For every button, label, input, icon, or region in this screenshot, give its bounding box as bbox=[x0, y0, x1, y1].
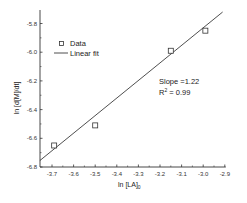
legend: Data Linear fit bbox=[54, 39, 100, 58]
y-tick-label: -6.4 bbox=[27, 107, 38, 113]
x-tick-label: -3.7 bbox=[47, 171, 58, 177]
y-tick-label: -6.2 bbox=[27, 78, 38, 84]
y-axis: -5.8-6.0-6.2-6.4-6.6-6.8 bbox=[27, 10, 43, 170]
y-tick-label: -6.8 bbox=[27, 164, 38, 170]
x-tick-label: -3.6 bbox=[68, 171, 79, 177]
y-tick-label: -5.8 bbox=[27, 21, 38, 27]
data-point bbox=[93, 123, 98, 128]
x-tick-label: -3.5 bbox=[90, 171, 101, 177]
x-tick-label: -3.1 bbox=[176, 171, 187, 177]
x-tick-label: -3.2 bbox=[155, 171, 166, 177]
x-tick-label: -2.9 bbox=[220, 171, 231, 177]
legend-label-data: Data bbox=[70, 39, 87, 48]
y-tick-label: -6.0 bbox=[27, 49, 38, 55]
x-tick-label: -3.4 bbox=[112, 171, 123, 177]
chart: -5.8-6.0-6.2-6.4-6.6-6.8 -3.7-3.6-3.5-3.… bbox=[0, 0, 247, 203]
x-axis: -3.7-3.6-3.5-3.4-3.3-3.2-3.1-3.0-2.9 bbox=[40, 165, 231, 178]
y-axis-title: ln [d[M]/dt] bbox=[13, 82, 21, 115]
data-point bbox=[52, 143, 57, 148]
y-tick-label: -6.6 bbox=[27, 135, 38, 141]
data-point bbox=[168, 48, 173, 53]
x-axis-title: ln [LA]0 bbox=[118, 181, 141, 190]
x-tick-label: -3.0 bbox=[198, 171, 209, 177]
slope-text: Slope =1.22 bbox=[159, 77, 199, 86]
x-tick-label: -3.3 bbox=[133, 171, 144, 177]
fit-annotation: Slope =1.22 R2 = 0.99 bbox=[159, 77, 199, 97]
fit-line bbox=[40, 12, 223, 161]
legend-marker-data bbox=[60, 42, 64, 46]
r-squared-text: R2 = 0.99 bbox=[159, 87, 190, 97]
legend-label-fit: Linear fit bbox=[70, 49, 100, 58]
data-point bbox=[203, 28, 208, 33]
